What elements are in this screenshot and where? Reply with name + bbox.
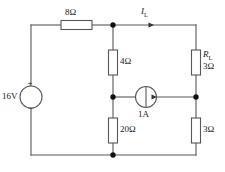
resistor-8ohm-body [61, 21, 92, 30]
current-il-subscript: L [144, 11, 148, 18]
resistor-8ohm-label: 8Ω [65, 8, 76, 17]
resistor-load-body [192, 50, 201, 75]
circuit-diagram-canvas: 8Ω IL 16V + − 4Ω 20Ω RL 3Ω 3Ω 1A [0, 0, 225, 172]
resistor-3ohm-body [192, 118, 201, 143]
current-il-label: IL [141, 7, 148, 19]
resistor-load-name-line: RL [203, 50, 214, 62]
node-bottom-center [110, 152, 115, 157]
resistor-load-value: 3Ω [203, 62, 214, 71]
resistor-4ohm-label: 4Ω [120, 57, 131, 66]
schematic-svg [0, 0, 225, 172]
resistor-load-subscript: L [209, 54, 213, 61]
current-source-label: 1A [138, 110, 149, 119]
voltage-source-label: 16V [2, 92, 18, 101]
resistor-4ohm-body [109, 50, 118, 75]
node-mid-center [110, 94, 115, 99]
voltage-source-minus-sign: − [28, 104, 33, 113]
node-mid-right [193, 94, 198, 99]
current-il-arrowhead-icon [149, 23, 155, 28]
resistor-20ohm-label: 20Ω [120, 125, 136, 134]
voltage-source-plus-sign: + [28, 79, 33, 88]
resistor-load-label: RL 3Ω [203, 50, 214, 71]
resistor-3ohm-label: 3Ω [203, 125, 214, 134]
resistor-20ohm-body [109, 118, 118, 143]
node-top-center [110, 22, 115, 27]
